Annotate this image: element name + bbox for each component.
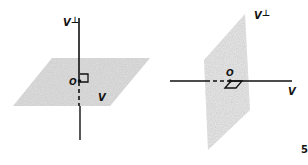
page-number: 5 (301, 144, 308, 155)
diagram-canvas: V⊥ O V O V V⊥ 5 (0, 0, 308, 165)
origin-point (78, 79, 82, 83)
origin-point (228, 79, 232, 83)
label-origin: O (69, 77, 77, 87)
label-v: V (288, 86, 297, 97)
right-figure: O V V⊥ (170, 8, 297, 150)
label-v-perp: V⊥ (63, 15, 79, 28)
left-figure: V⊥ O V (13, 15, 150, 140)
label-v-perp: V⊥ (254, 8, 270, 21)
label-v: V (98, 92, 107, 103)
label-origin: O (226, 68, 234, 78)
plane-v-perp-texture (204, 14, 250, 150)
